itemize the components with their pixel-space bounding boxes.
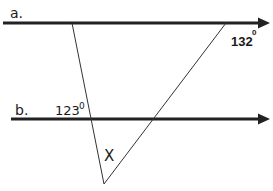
arrowhead-icon xyxy=(258,114,270,125)
line-a-label: a. xyxy=(10,5,23,21)
angle-132-degree: 0 xyxy=(252,28,257,37)
line-b-label: b. xyxy=(15,102,28,118)
transversal-right xyxy=(104,23,226,184)
angle-123-degree: 0 xyxy=(79,101,85,111)
line-b xyxy=(11,114,270,125)
parallel-lines-diagram: a. b. 132 0 123 0 X xyxy=(0,0,273,191)
angle-123-value: 123 xyxy=(55,103,80,118)
arrowhead-icon xyxy=(258,18,270,29)
unknown-angle-x: X xyxy=(104,147,114,165)
line-a xyxy=(3,18,270,29)
angle-132-value: 132 xyxy=(231,34,253,49)
